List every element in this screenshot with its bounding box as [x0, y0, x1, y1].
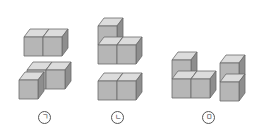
g3-piece-right	[220, 55, 245, 101]
cube-front-face	[43, 37, 62, 56]
unit-cube	[46, 62, 71, 89]
cube-front-face	[46, 70, 65, 89]
cube-group-g1	[19, 29, 71, 99]
unit-cube	[19, 72, 44, 99]
label-group-3: ㅁ	[202, 111, 215, 124]
label-group-1: ㄱ	[38, 111, 51, 124]
cube-front-face	[19, 80, 38, 99]
cube-group-g3	[172, 52, 245, 101]
cube-front-face	[220, 82, 239, 101]
g2-piece-top	[98, 18, 142, 64]
cube-front-face	[117, 81, 136, 100]
cube-front-face	[24, 37, 43, 56]
unit-cube	[191, 71, 216, 98]
g3-piece-left	[172, 52, 216, 98]
g1-piece-top	[24, 29, 68, 56]
unit-cube	[43, 29, 68, 56]
cube-front-face	[117, 45, 136, 64]
unit-cube	[117, 73, 142, 100]
unit-cube	[220, 74, 245, 101]
g2-piece-bottom	[98, 73, 142, 100]
cube-group-g2	[98, 18, 142, 100]
label-group-2: ㄴ	[111, 111, 124, 124]
cube-front-face	[98, 81, 117, 100]
cube-front-face	[98, 45, 117, 64]
unit-cube	[117, 37, 142, 64]
cube-front-face	[172, 79, 191, 98]
cube-front-face	[191, 79, 210, 98]
g1-piece-bottom	[19, 62, 71, 99]
